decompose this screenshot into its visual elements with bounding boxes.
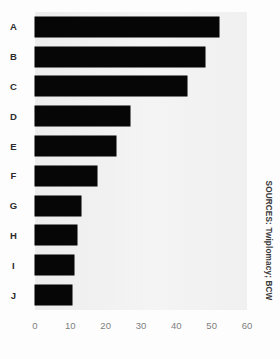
bar-row — [35, 250, 247, 280]
category-label-e: E — [0, 131, 27, 161]
bar-row — [35, 131, 247, 161]
bar-c — [35, 76, 187, 96]
category-label-b: B — [0, 42, 27, 72]
bar-h — [35, 225, 77, 245]
bar-row — [35, 161, 247, 191]
bar-row — [35, 42, 247, 72]
bar-i — [35, 255, 74, 275]
category-label-h: H — [0, 221, 27, 251]
bar-row — [35, 72, 247, 102]
category-label-g: G — [0, 191, 27, 221]
category-label-c: C — [0, 72, 27, 102]
category-axis: ABCDEFGHIJ — [0, 12, 35, 310]
category-label-j: J — [0, 280, 27, 310]
x-tick-label-20: 20 — [100, 320, 111, 331]
x-tick-label-10: 10 — [65, 320, 76, 331]
x-axis: 0102030405060 — [35, 310, 247, 336]
category-label-d: D — [0, 101, 27, 131]
x-tick-label-60: 60 — [242, 320, 253, 331]
bar-d — [35, 106, 130, 126]
plot-area — [35, 12, 247, 310]
category-label-f: F — [0, 161, 27, 191]
bar-b — [35, 47, 205, 67]
bar-f — [35, 166, 97, 186]
bar-g — [35, 196, 81, 216]
bar-e — [35, 136, 116, 156]
category-label-i: I — [0, 250, 27, 280]
bar-chart-figure: ABCDEFGHIJ 0102030405060 SOURCES: Twiplo… — [0, 0, 280, 359]
category-label-a: A — [0, 12, 27, 42]
bar-row — [35, 101, 247, 131]
source-credit: SOURCES: Twiplomacy; BCW — [262, 178, 276, 314]
bar-row — [35, 191, 247, 221]
bar-j — [35, 285, 72, 305]
bar-row — [35, 280, 247, 310]
bar-row — [35, 12, 247, 42]
x-tick-label-30: 30 — [136, 320, 147, 331]
x-tick-label-50: 50 — [206, 320, 217, 331]
bar-a — [35, 17, 219, 37]
source-credit-label: SOURCES: Twiplomacy; BCW — [265, 181, 274, 301]
x-tick-label-0: 0 — [32, 320, 37, 331]
x-tick-label-40: 40 — [171, 320, 182, 331]
bar-row — [35, 221, 247, 251]
